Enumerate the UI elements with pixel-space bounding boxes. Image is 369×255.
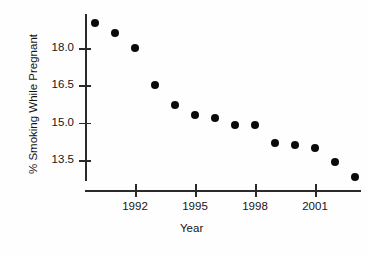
y-tick-label: 18.0 [40,41,74,53]
x-tick-label: 1998 [232,200,278,212]
data-point [111,29,119,37]
x-tick-label: 1992 [112,200,158,212]
data-point [171,101,179,109]
y-tick-mark [79,123,91,125]
x-axis-title: Year [180,222,203,234]
y-tick-mark [79,85,91,87]
plot-area: 18.016.515.013.5 1992199519982001 % Smok… [0,0,369,255]
x-tick-mark [255,184,257,197]
data-point [291,141,299,149]
x-tick-label: 2001 [292,200,338,212]
data-point [191,111,199,119]
x-axis-line [85,190,361,192]
data-point [151,81,159,89]
data-point [231,121,239,129]
data-point [211,114,219,122]
y-tick-mark [79,160,91,162]
x-tick-mark [195,184,197,197]
data-point [311,144,319,152]
x-tick-mark [315,184,317,197]
data-point [271,139,279,147]
y-tick-mark [79,48,91,50]
y-axis-title: % Smoking While Pregnant [27,9,39,199]
y-axis-line [85,14,87,181]
data-point [91,19,99,27]
data-point [131,44,139,52]
y-tick-label: 15.0 [40,116,74,128]
data-point [351,173,359,181]
x-tick-label: 1995 [172,200,218,212]
data-point [331,158,339,166]
chart-screenshot: 18.016.515.013.5 1992199519982001 % Smok… [0,0,369,255]
data-point [251,121,259,129]
y-tick-label: 16.5 [40,78,74,90]
x-tick-mark [135,184,137,197]
y-tick-label: 13.5 [40,153,74,165]
